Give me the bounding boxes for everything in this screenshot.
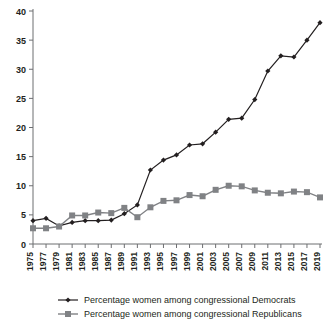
y-tick-label: 25 <box>16 94 26 104</box>
line-chart: 0510152025303540 19751977197919811983198… <box>0 0 332 326</box>
x-tick-label: 1985 <box>90 252 100 271</box>
y-axis: 0510152025303540 <box>16 7 33 250</box>
x-tick-label: 2001 <box>195 252 205 271</box>
x-tick-label: 1993 <box>142 252 152 271</box>
x-tick-label: 2007 <box>234 252 244 271</box>
x-tick-label: 1991 <box>129 252 139 271</box>
legend-marker-square-icon <box>65 311 71 317</box>
chart-container: 0510152025303540 19751977197919811983198… <box>0 0 332 326</box>
y-tick-label: 10 <box>16 181 26 191</box>
data-series-group <box>30 20 323 231</box>
x-tick-label: 1989 <box>116 252 126 271</box>
x-tick-label: 2003 <box>208 252 218 271</box>
x-tick-label: 1987 <box>103 252 113 271</box>
data-point-republicans <box>134 214 140 220</box>
data-point-democrats <box>70 220 75 225</box>
legend-item-label: Percentage women among congressional Dem… <box>84 295 296 305</box>
x-tick-label: 1999 <box>182 252 192 271</box>
data-point-republicans <box>82 212 88 218</box>
data-point-republicans <box>317 194 323 200</box>
y-tick-label: 30 <box>16 65 26 75</box>
x-tick-label: 1979 <box>51 252 61 271</box>
data-point-democrats <box>30 218 35 223</box>
data-point-republicans <box>43 225 49 231</box>
data-point-republicans <box>213 187 219 193</box>
data-point-democrats <box>109 218 114 223</box>
data-point-republicans <box>265 190 271 196</box>
x-tick-label: 1981 <box>64 252 74 271</box>
x-tick-label: 1983 <box>77 252 87 271</box>
y-tick-label: 0 <box>21 240 26 250</box>
data-point-republicans <box>174 197 180 203</box>
data-point-republicans <box>160 198 166 204</box>
data-point-democrats <box>43 216 48 221</box>
data-point-republicans <box>69 212 75 218</box>
x-tick-label: 2019 <box>312 252 322 271</box>
x-tick-label: 2017 <box>299 252 309 271</box>
data-point-democrats <box>83 218 88 223</box>
x-axis: 1975197719791981198319851987198919911993… <box>25 244 322 271</box>
y-tick-label: 20 <box>16 123 26 133</box>
data-point-republicans <box>187 192 193 198</box>
data-point-democrats <box>96 218 101 223</box>
x-tick-label: 1997 <box>169 252 179 271</box>
legend-marker-diamond-icon <box>65 297 70 302</box>
data-point-republicans <box>252 187 258 193</box>
y-tick-label: 35 <box>16 36 26 46</box>
data-point-republicans <box>30 225 36 231</box>
series-line-democrats <box>33 23 320 226</box>
x-tick-label: 2009 <box>247 252 257 271</box>
x-tick-label: 2005 <box>221 252 231 271</box>
y-tick-label: 15 <box>16 152 26 162</box>
x-tick-label: 1995 <box>155 252 165 271</box>
data-point-republicans <box>95 210 101 216</box>
y-tick-label: 40 <box>16 7 26 17</box>
data-point-republicans <box>304 189 310 195</box>
data-point-republicans <box>291 189 297 195</box>
data-point-republicans <box>226 183 232 189</box>
data-point-republicans <box>108 210 114 216</box>
data-point-republicans <box>278 190 284 196</box>
x-tick-label: 2011 <box>260 252 270 271</box>
data-point-republicans <box>200 193 206 199</box>
y-tick-label: 5 <box>21 210 26 220</box>
chart-legend: Percentage women among congressional Dem… <box>58 295 302 319</box>
legend-item-label: Percentage women among congressional Rep… <box>84 309 302 319</box>
x-tick-label: 1975 <box>25 252 35 271</box>
data-point-republicans <box>239 183 245 189</box>
data-point-republicans <box>121 205 127 211</box>
x-tick-label: 2015 <box>286 252 296 271</box>
x-tick-label: 2013 <box>273 252 283 271</box>
x-tick-label: 1977 <box>38 252 48 271</box>
data-point-republicans <box>147 204 153 210</box>
data-point-republicans <box>56 224 62 230</box>
